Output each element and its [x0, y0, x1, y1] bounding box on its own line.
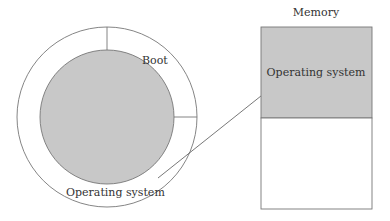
memory-title: Memory [293, 6, 340, 19]
disk: Boot Operating system [17, 27, 197, 207]
memory-os-label: Operating system [267, 66, 366, 79]
boot-label: Boot [142, 54, 168, 67]
disk-inner-platter [40, 50, 174, 184]
memory-free-region [261, 118, 372, 209]
diagram-canvas: Boot Operating system Memory Operating s… [0, 0, 390, 221]
disk-os-label: Operating system [66, 186, 165, 199]
memory-block: Memory Operating system [261, 6, 372, 209]
